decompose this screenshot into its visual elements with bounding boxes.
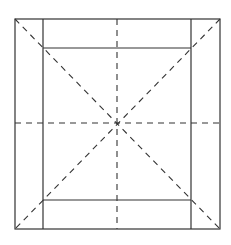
fold-diagram — [0, 0, 231, 245]
